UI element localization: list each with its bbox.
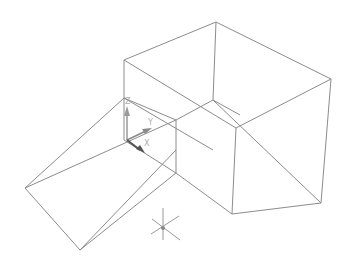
z-arrow-icon (124, 106, 130, 116)
box-object[interactable] (124, 22, 331, 214)
viewport-canvas[interactable]: Z Y X (0, 0, 348, 256)
z-axis-label: Z (125, 97, 131, 106)
3d-viewport[interactable]: Z Y X (0, 0, 348, 256)
ucs-icon: Z Y X (124, 97, 153, 153)
wedge-object[interactable] (25, 98, 176, 250)
y-axis-label: Y (147, 118, 153, 127)
pivot-gizmo-icon[interactable] (151, 208, 180, 240)
x-axis-label: X (144, 139, 150, 148)
